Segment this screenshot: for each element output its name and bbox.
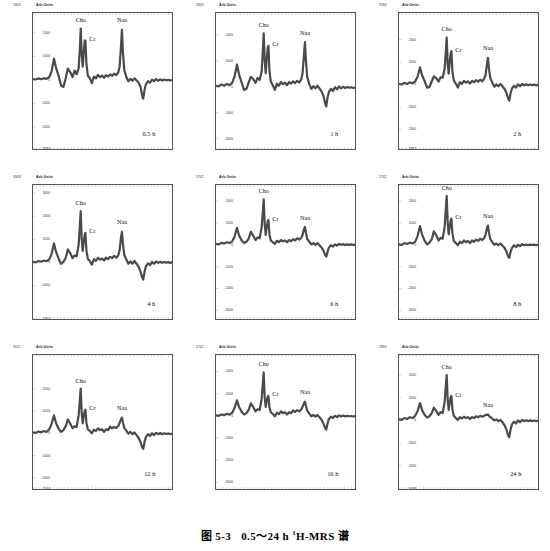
peak-label-cho: Cho	[442, 363, 452, 370]
peak-label-cr: Cr	[89, 227, 95, 234]
y-axis-unit-label: Arb Units	[219, 3, 236, 7]
spectrum-panel: 3180Arb Units200010000-1000-2000-28744.5…	[366, 0, 549, 172]
spectrum-panel: 2742Arb Units200010000-1000-2000-30004.5…	[183, 342, 366, 512]
peak-label-cho: Cho	[259, 360, 269, 367]
panel-inner: 2742Arb Units200010000-1000-2000-30004.5…	[197, 184, 356, 320]
y-axis-tick-label: -3039	[408, 487, 416, 490]
y-axis-tick-label: -2000	[408, 127, 416, 131]
panel-time-label: 1 h	[330, 130, 338, 137]
y-axis-max-label: 2742	[196, 175, 204, 179]
y-axis-tick-label: -2000	[225, 286, 233, 290]
y-axis-tick-label: -1000	[408, 265, 416, 269]
peak-label-cr: Cr	[272, 40, 278, 47]
panel-inner: 3348Arb Units3000200010000-1000-24504.50…	[14, 184, 173, 320]
y-axis-tick-label: -2450	[42, 317, 50, 320]
spectrum-trace	[216, 372, 355, 429]
peak-label-naa: Naa	[300, 29, 310, 36]
spectrum-panel: 3348Arb Units3000200010000-1000-24504.50…	[0, 172, 183, 342]
y-axis-max-label: 2844	[13, 3, 21, 7]
y-axis-tick-label: 0	[414, 82, 416, 86]
y-axis-tick-label: -2500	[42, 487, 50, 490]
spectrum-panel: 2844Arb Units200010000-1000-2000-29444.5…	[0, 0, 183, 172]
y-axis-tick-label: -1000	[225, 436, 233, 440]
y-axis-tick-label: 2000	[409, 199, 416, 203]
y-axis-tick-label: 0	[414, 418, 416, 422]
y-axis-tick-label: 0	[231, 243, 233, 247]
y-axis-tick-label: 2000	[226, 33, 233, 37]
panel-inner: 3511Arb Units200010000-1000-2000-25004.5…	[14, 354, 173, 490]
spectrum-trace	[399, 196, 538, 258]
plot-area: 200010000-1000-2000-28744.503.713.092.48…	[398, 12, 539, 150]
y-axis-max-label: 3511	[13, 345, 20, 349]
spectrum-panel: 2844Arb Units200010000-1000-20004.503.71…	[183, 0, 366, 172]
y-axis-max-label: 2892	[379, 345, 387, 349]
spectrum-svg	[216, 185, 355, 319]
y-axis-tick-label: 0	[231, 414, 233, 418]
y-axis-tick-label: -1000	[408, 441, 416, 445]
y-axis-tick-label: -2000	[225, 137, 233, 141]
spectrum-svg	[399, 185, 538, 319]
y-axis-tick-label: 1000	[409, 221, 416, 225]
y-axis-tick-label: 3000	[43, 191, 50, 195]
spectrum-trace	[33, 389, 172, 449]
caption-modality: H-MRS 谱	[296, 530, 349, 542]
y-axis-tick-label: 0	[414, 243, 416, 247]
spectrum-panel: 3511Arb Units200010000-1000-2000-25004.5…	[0, 342, 183, 512]
y-axis-tick-label: -1000	[42, 283, 50, 287]
panel-time-label: 4 h	[147, 300, 155, 307]
peak-label-cho: Cho	[259, 21, 269, 28]
figure-caption: 图 5-30.5～24 h 1H-MRS 谱	[0, 527, 550, 543]
panel-time-label: 8 h	[513, 300, 521, 307]
y-axis-max-label: 3180	[379, 3, 387, 7]
peak-label-cr: Cr	[455, 391, 461, 398]
y-axis-tick-label: 2000	[409, 373, 416, 377]
y-axis-max-label: 2742	[196, 345, 204, 349]
y-axis-tick-label: -1000	[42, 454, 50, 458]
y-axis-unit-label: Arb Units	[219, 345, 236, 349]
peak-label-cho: Cho	[76, 199, 86, 206]
panel-inner: 2892Arb Units200010000-1000-2000-30394.5…	[380, 354, 539, 490]
y-axis-tick-label: -1000	[225, 111, 233, 115]
peak-label-naa: Naa	[300, 388, 310, 395]
plot-area: 200010000-1000-2000-30394.503.713.092.48…	[398, 354, 539, 490]
spectrum-trace	[399, 38, 538, 101]
spectrum-trace	[33, 29, 172, 99]
plot-area: 200010000-1000-2000-30004.503.713.092.48…	[215, 184, 356, 320]
y-axis-tick-label: -2000	[225, 458, 233, 462]
y-axis-tick-label: 1000	[409, 396, 416, 400]
y-axis-tick-label: -2000	[42, 476, 50, 480]
y-axis-tick-label: 2000	[43, 214, 50, 218]
y-axis-tick-label: -2944	[42, 147, 50, 150]
peak-label-cho: Cho	[442, 184, 452, 191]
peak-label-naa: Naa	[117, 218, 127, 225]
spectrum-svg	[216, 13, 355, 149]
peak-label-cr: Cr	[272, 215, 278, 222]
peak-label-naa: Naa	[483, 401, 493, 408]
y-axis-unit-label: Arb Units	[36, 345, 53, 349]
spectrum-svg	[33, 13, 172, 149]
y-axis-tick-label: -2000	[408, 286, 416, 290]
peak-label-cr: Cr	[89, 404, 95, 411]
panel-time-label: 0.5 h	[143, 130, 156, 137]
y-axis-tick-label: 1000	[226, 392, 233, 396]
peak-label-cr: Cr	[455, 213, 461, 220]
y-axis-tick-label: 1000	[43, 409, 50, 413]
y-axis-tick-label: 0	[231, 85, 233, 89]
y-axis-unit-label: Arb Units	[402, 3, 419, 7]
plot-area: 200010000-1000-2000-30004.503.713.092.48…	[398, 184, 539, 320]
y-axis-tick-label: -3000	[225, 308, 233, 312]
peak-label-naa: Naa	[483, 212, 493, 219]
y-axis-tick-label: -3000	[408, 308, 416, 312]
y-axis-tick-label: 2000	[43, 31, 50, 35]
y-axis-tick-label: -1000	[225, 265, 233, 269]
y-axis-unit-label: Arb Units	[402, 175, 419, 179]
peak-label-cho: Cho	[76, 377, 86, 384]
y-axis-tick-label: -2874	[408, 147, 416, 150]
panel-time-label: 16 h	[327, 470, 338, 477]
y-axis-unit-label: Arb Units	[402, 345, 419, 349]
spectrum-trace	[216, 199, 355, 256]
plot-area: 200010000-1000-2000-29444.503.713.092.48…	[32, 12, 173, 150]
y-axis-tick-label: 1000	[43, 237, 50, 241]
spectrum-trace	[216, 33, 355, 106]
y-axis-tick-label: 2000	[226, 199, 233, 203]
